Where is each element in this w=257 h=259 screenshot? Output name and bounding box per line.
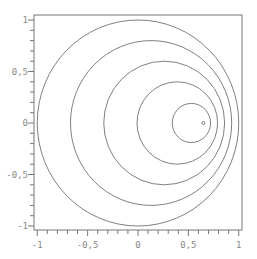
y-tick-label: 1 — [23, 15, 28, 25]
x-tick-label: -1 — [32, 240, 43, 250]
y-tick-label: 0,5 — [12, 67, 28, 77]
y-tick-label: -0,5 — [6, 170, 28, 180]
y-tick-label: -1 — [17, 221, 28, 231]
y-axis: 10,50-0,5-1 — [6, 15, 34, 231]
chart: -1-0,500,51 10,50-0,5-1 — [0, 0, 257, 259]
x-axis: -1-0,500,51 — [32, 230, 242, 250]
circle-1 — [37, 20, 239, 226]
x-tick-label: 0,5 — [180, 240, 196, 250]
x-tick-label: -0,5 — [77, 240, 99, 250]
circle-6 — [202, 121, 205, 124]
circle-2 — [70, 41, 231, 206]
y-tick-label: 0 — [23, 118, 28, 128]
circle-3 — [104, 61, 225, 185]
x-tick-label: 0 — [135, 240, 140, 250]
x-tick-label: 1 — [236, 240, 241, 250]
circle-curves — [37, 20, 239, 226]
circle-4 — [137, 82, 218, 164]
